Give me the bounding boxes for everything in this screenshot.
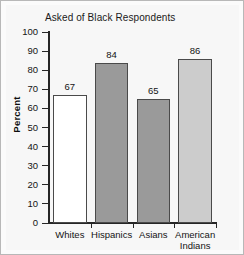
y-tick-label: 20 — [12, 180, 38, 189]
y-tick-mark — [42, 146, 49, 147]
chart-title: Asked of Black Respondents — [45, 12, 225, 23]
y-tick-label: 10 — [12, 199, 38, 208]
y-tick-mark — [42, 203, 49, 204]
y-tick-label: 100 — [12, 27, 38, 36]
y-tick-mark — [42, 108, 49, 109]
x-tick-mark — [216, 224, 217, 228]
y-tick-label: 90 — [12, 46, 38, 55]
x-axis-category-label: AmericanIndians — [168, 229, 222, 251]
y-tick-label: 40 — [12, 142, 38, 151]
y-tick-label: 60 — [12, 103, 38, 112]
y-tick-label: 80 — [12, 65, 38, 74]
y-tick-mark — [42, 223, 49, 224]
bar — [53, 95, 86, 223]
x-tick-mark — [174, 224, 175, 228]
y-tick-mark — [42, 70, 49, 71]
bar-value-label: 67 — [50, 82, 90, 92]
y-axis-title: Percent — [11, 89, 22, 141]
y-tick-label: 0 — [12, 218, 38, 227]
bar-value-label: 84 — [92, 50, 132, 60]
chart-figure: Asked of Black Respondents Percent 10090… — [0, 0, 244, 255]
bar — [95, 63, 128, 223]
y-tick-label: 70 — [12, 84, 38, 93]
y-tick-label: 50 — [12, 123, 38, 132]
y-tick-mark — [42, 165, 49, 166]
y-tick-mark — [42, 184, 49, 185]
y-tick-mark — [42, 32, 49, 33]
bar — [178, 59, 211, 223]
y-tick-mark — [42, 51, 49, 52]
x-tick-mark — [133, 224, 134, 228]
bar-value-label: 65 — [133, 86, 173, 96]
y-tick-mark — [42, 89, 49, 90]
y-tick-mark — [42, 127, 49, 128]
bar-value-label: 86 — [175, 46, 215, 56]
y-tick-label: 30 — [12, 161, 38, 170]
x-tick-mark — [91, 224, 92, 228]
bar — [137, 99, 170, 223]
